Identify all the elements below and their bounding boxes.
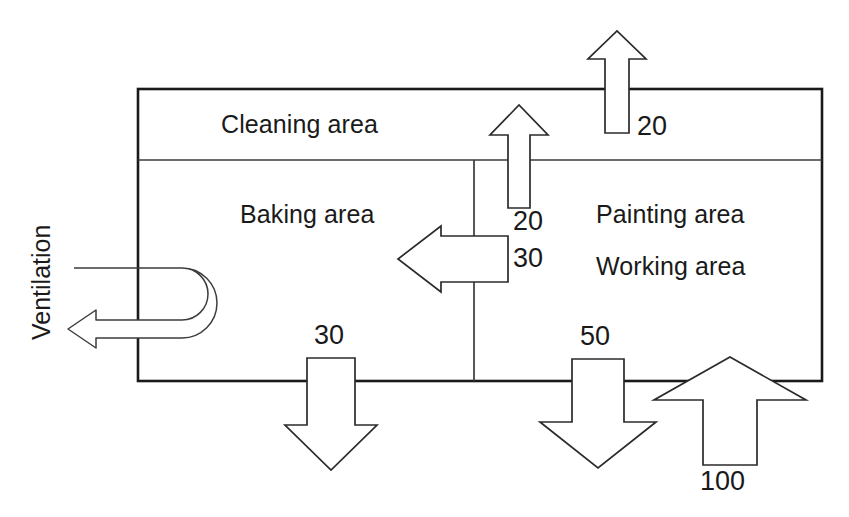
flow-label-interior-left-30: 30 (513, 243, 543, 274)
ventilation-hook-arrow-icon (68, 268, 217, 348)
flow-label-interior-up-20: 20 (513, 206, 543, 237)
painting-area-label: Painting area (596, 200, 745, 229)
exhaust-arrow-down-30-icon (285, 358, 377, 470)
flow-label-painting-down-50: 50 (580, 321, 610, 352)
ventilation-diagram: Cleaning area Baking area Painting area … (0, 0, 849, 517)
cleaning-area-label: Cleaning area (221, 110, 378, 139)
supply-arrow-up-100-icon (654, 357, 806, 465)
baking-area-label: Baking area (240, 200, 375, 229)
flow-label-exhaust-top-right-20: 20 (637, 111, 667, 142)
exhaust-arrow-down-50-icon (540, 359, 656, 468)
flow-label-baking-down-30: 30 (314, 320, 344, 351)
flow-label-supply-up-100: 100 (700, 466, 745, 497)
interior-arrow-left-30-icon (398, 226, 508, 292)
ventilation-label: Ventilation (27, 225, 56, 340)
interior-arrow-up-20-icon (490, 105, 548, 208)
working-area-label: Working area (596, 252, 745, 281)
